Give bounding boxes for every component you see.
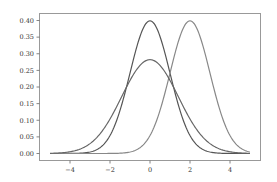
x-tick-label: −2 [105, 166, 115, 174]
x-tick-label: 2 [188, 166, 192, 174]
density-curve [50, 21, 250, 154]
y-tick-label: 0.25 [20, 67, 34, 75]
curves [50, 21, 250, 154]
y-tick-label: 0.40 [20, 17, 34, 25]
y-tick-label: 0.30 [20, 50, 34, 58]
y-tick-label: 0.15 [20, 100, 34, 108]
y-tick-label: 0.10 [20, 117, 34, 125]
density-curve [50, 60, 250, 154]
y-axis: 0.000.050.100.150.200.250.300.350.40 [20, 17, 40, 158]
x-tick-label: −4 [65, 166, 75, 174]
y-tick-label: 0.00 [20, 150, 34, 158]
axes-frame [40, 14, 261, 161]
y-tick-label: 0.20 [20, 83, 34, 91]
density-chart: 0.000.050.100.150.200.250.300.350.40 −4−… [0, 0, 277, 182]
x-tick-label: 0 [148, 166, 152, 174]
y-tick-label: 0.05 [20, 133, 34, 141]
x-axis: −4−2024 [65, 161, 232, 175]
y-tick-label: 0.35 [20, 33, 34, 41]
x-tick-label: 4 [228, 166, 232, 174]
density-curve [50, 21, 250, 154]
